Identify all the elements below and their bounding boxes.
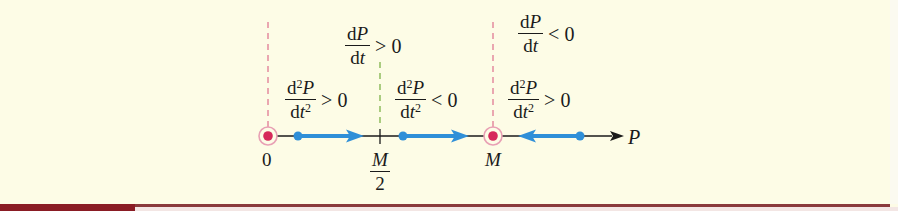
equilibrium-0-dot [263, 131, 273, 141]
flow-start-dot [294, 132, 303, 141]
point-label-M: M [485, 150, 501, 169]
axis-arrowhead-icon [610, 131, 624, 141]
point-label-0: 0 [262, 150, 272, 169]
first-derivative-label-right: dP dt < 0 [518, 12, 574, 55]
equilibrium-M-dot [488, 131, 498, 141]
second-derivative-label-1: d2P dt2 > 0 [285, 78, 347, 121]
flow-start-dot [576, 132, 585, 141]
axis-label-P: P [628, 127, 640, 147]
flow-start-dot [399, 132, 408, 141]
second-derivative-label-3: d2P dt2 > 0 [508, 78, 570, 121]
first-derivative-label-left: dP dt > 0 [345, 24, 401, 67]
point-label-half-M: M 2 [370, 150, 390, 193]
second-derivative-label-2: d2P dt2 < 0 [395, 78, 457, 121]
